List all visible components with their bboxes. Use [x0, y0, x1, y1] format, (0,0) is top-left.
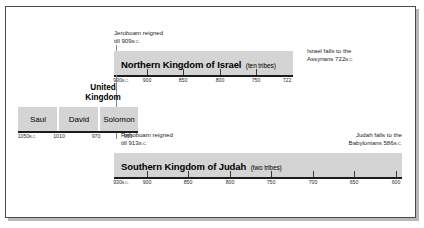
uk-tick-label-1050: 1050B.C.	[18, 133, 37, 139]
israel-tick-label-850: 850	[179, 77, 188, 83]
judah-tick-750	[271, 171, 272, 177]
israel-tick-label-800: 800	[216, 77, 225, 83]
united-kingdom-band: Saul David Solomon	[18, 107, 138, 131]
judah-right-note: Judah falls to the Babylonians 586B.C.	[284, 131, 402, 147]
judah-left-note: Rehoboam reigned till 913B.C.	[121, 131, 173, 147]
judah-tick-label-600: 600	[392, 179, 401, 185]
judah-left-note-line1: Rehoboam reigned	[121, 131, 173, 138]
judah-tick-600	[396, 171, 397, 177]
judah-right-note-line1: Judah falls to the	[356, 131, 402, 138]
israel-tick-label-900: 900	[143, 77, 152, 83]
judah-tick-label-900: 900	[143, 179, 152, 185]
judah-tick-650	[354, 171, 355, 177]
israel-left-note: Jeroboam reigned till 909B.C.	[114, 29, 163, 45]
judah-tick-label-850: 850	[184, 179, 193, 185]
israel-tick-900	[147, 69, 148, 75]
judah-right-note-line2: Babylonians 586B.C.	[349, 139, 402, 146]
judah-tick-label-930: 930B.C.	[113, 179, 129, 185]
judah-tick-800	[230, 171, 231, 177]
judah-tick-900	[147, 171, 148, 177]
israel-tick-850	[183, 69, 184, 75]
israel-left-note-line1: Jeroboam reigned	[114, 29, 163, 36]
uk-tick-label-1010: 1010	[53, 133, 65, 139]
uk-tick-label-970: 970	[92, 133, 101, 139]
israel-band-sub: (ten tribes)	[246, 62, 276, 69]
judah-band-label: Southern Kingdom of Judah (two tribes)	[121, 156, 282, 174]
israel-tick-800	[220, 69, 221, 75]
judah-tick-label-800: 800	[226, 179, 235, 185]
judah-tick-700	[313, 171, 314, 177]
bc-abbrev: B.C.	[394, 141, 402, 146]
diagram-frame: Jeroboam reigned till 909B.C. Israel fal…	[5, 6, 416, 218]
israel-right-note-line1: Israel falls to the	[307, 47, 351, 54]
united-kingdom-heading-line2: Kingdom	[85, 93, 120, 102]
reign-david: David	[59, 107, 99, 131]
bc-abbrev: B.C.	[345, 57, 353, 62]
israel-tick-label-722: 722	[283, 77, 292, 83]
judah-band: Southern Kingdom of Judah (two tribes)	[114, 153, 402, 177]
judah-tick-label-700: 700	[309, 179, 318, 185]
united-kingdom-heading: United Kingdom	[68, 83, 138, 102]
judah-band-title: Southern Kingdom of Judah	[121, 161, 246, 172]
judah-band-sub: (two tribes)	[251, 164, 282, 171]
bc-abbrev: B.C.	[132, 39, 140, 44]
judah-tick-850	[188, 171, 189, 177]
judah-tick-label-650: 650	[350, 179, 359, 185]
israel-band-title: Northern Kingdom of Israel	[121, 59, 241, 70]
israel-axis-rule	[114, 75, 293, 77]
bc-abbrev: B.C.	[139, 141, 147, 146]
israel-right-note-line2: Assyrians 722B.C.	[307, 55, 354, 62]
reign-saul: Saul	[18, 107, 58, 131]
judah-tick-label-750: 750	[267, 179, 276, 185]
timeline-diagram: Jeroboam reigned till 909B.C. Israel fal…	[0, 0, 424, 228]
united-kingdom-heading-line1: United	[90, 83, 115, 92]
judah-axis-rule	[114, 177, 402, 179]
israel-left-note-line2: till 909B.C.	[114, 37, 140, 44]
reign-solomon: Solomon	[100, 107, 138, 131]
israel-band-label: Northern Kingdom of Israel (ten tribes)	[121, 54, 276, 72]
israel-tick-750	[256, 69, 257, 75]
israel-tick-label-750: 750	[252, 77, 261, 83]
judah-left-note-line2: till 913B.C.	[121, 139, 147, 146]
israel-band: Northern Kingdom of Israel (ten tribes)	[114, 51, 293, 75]
israel-right-note: Israel falls to the Assyrians 722B.C.	[307, 47, 354, 63]
